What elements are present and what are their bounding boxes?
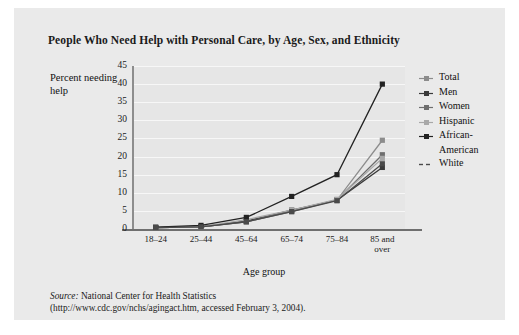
gridline — [133, 157, 405, 158]
legend-item[interactable]: Men — [419, 86, 505, 101]
legend-marker-icon — [419, 162, 435, 167]
legend-marker-icon — [419, 105, 435, 110]
legend-label: Women — [439, 100, 470, 111]
y-tick-label: 30 — [97, 114, 127, 124]
y-tick-label: 45 — [97, 60, 127, 70]
chart-title: People Who Need Help with Personal Care,… — [48, 34, 400, 46]
source-label: Source: — [50, 291, 79, 301]
y-tick-label: 10 — [97, 187, 127, 197]
y-axis-line — [132, 66, 134, 230]
gridline — [133, 120, 405, 121]
figure-panel: People Who Need Help with Personal Care,… — [14, 8, 505, 320]
source-note: Source: National Center for Health Stati… — [50, 291, 306, 314]
x-tick-label: 85 andover — [352, 234, 412, 254]
gridline — [133, 84, 405, 85]
gridline — [133, 66, 405, 67]
gridline — [133, 193, 405, 194]
chart-legend: TotalMenWomenHispanicAfrican-AmericanWhi… — [419, 71, 505, 171]
legend-label: Total — [439, 71, 459, 82]
y-tick-label: 40 — [97, 78, 127, 88]
y-tick-label: 0 — [97, 223, 127, 233]
y-tick-label: 15 — [97, 169, 127, 179]
gridline — [133, 138, 405, 139]
y-tick-label: 5 — [97, 205, 127, 215]
x-axis-title: Age group — [204, 266, 324, 277]
legend-marker-icon — [419, 134, 435, 139]
legend-item[interactable]: Hispanic — [419, 115, 505, 130]
legend-item[interactable]: White — [419, 157, 505, 172]
legend-marker-icon — [419, 76, 435, 81]
gridline — [133, 102, 405, 103]
legend-label-continuation: American — [419, 144, 505, 157]
legend-marker-icon — [419, 120, 435, 125]
source-text: National Center for Health Statistics — [79, 291, 217, 301]
gridline — [133, 175, 405, 176]
y-tick-label: 20 — [97, 151, 127, 161]
legend-label: White — [439, 157, 463, 168]
y-tick-label: 25 — [97, 132, 127, 142]
legend-marker-icon — [419, 91, 435, 96]
legend-label: Hispanic — [439, 115, 475, 126]
y-tick-label: 35 — [97, 96, 127, 106]
legend-label: Men — [439, 86, 457, 97]
legend-item[interactable]: Women — [419, 100, 505, 115]
legend-item[interactable]: Total — [419, 71, 505, 86]
source-url-line: (http://www.cdc.gov/nchs/agingact.htm, a… — [50, 303, 306, 313]
gridline — [133, 211, 405, 212]
x-axis-line — [122, 229, 422, 231]
legend-label: African- — [439, 129, 473, 140]
legend-item[interactable]: African- — [419, 129, 505, 144]
plot-area — [133, 66, 405, 229]
